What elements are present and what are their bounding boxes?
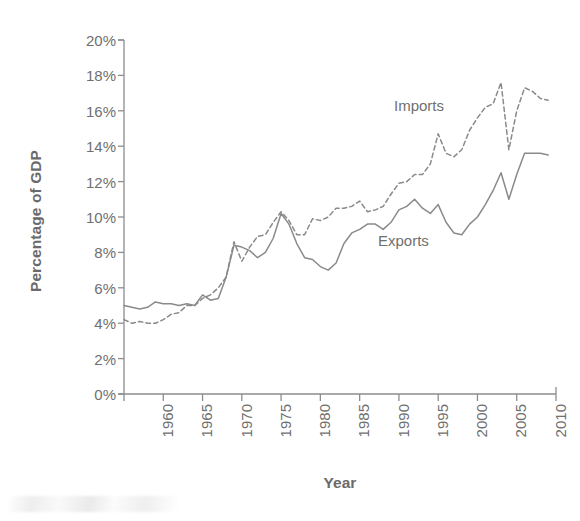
exports-series-label: Exports	[378, 232, 429, 249]
chart-container: Percentage of GDP Year 0%2%4%6%8%10%12%1…	[0, 0, 580, 521]
x-tick-label: 2010	[552, 404, 569, 474]
x-axis-tick-labels: 1960196519701975198019851990199520002005…	[0, 0, 580, 521]
x-tick-label: 2000	[473, 404, 490, 474]
x-tick-label: 2005	[512, 404, 529, 474]
imports-series-label: Imports	[394, 97, 444, 114]
x-tick-label: 1980	[316, 404, 333, 474]
x-tick-label: 1985	[355, 404, 372, 474]
x-tick-label: 1960	[159, 404, 176, 474]
x-tick-label: 1970	[238, 404, 255, 474]
x-tick-label: 1975	[277, 404, 294, 474]
x-tick-label: 1995	[434, 404, 451, 474]
x-tick-label: 1990	[395, 404, 412, 474]
x-tick-label: 1965	[198, 404, 215, 474]
